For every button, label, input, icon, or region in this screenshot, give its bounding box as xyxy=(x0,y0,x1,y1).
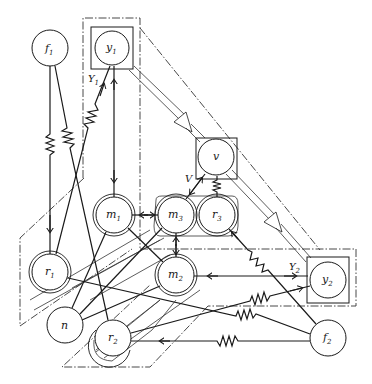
edge-n-m3 xyxy=(80,228,162,314)
edge-r2-y2 xyxy=(131,286,310,333)
double-arrow-v-to-y2 xyxy=(226,170,311,262)
node-y2[interactable]: y2 xyxy=(310,262,346,298)
node-f1[interactable]: f1 xyxy=(32,30,68,66)
node-r1[interactable]: r1 xyxy=(29,251,71,293)
region-label-y1: Y1 xyxy=(88,73,99,87)
region-label-v: V xyxy=(185,173,194,184)
region-labels: Y1 V Y2 xyxy=(88,73,301,275)
region-label-y2: Y2 xyxy=(289,261,301,275)
network-diagram: f1 y1 v m1 m3 r3 xyxy=(0,0,372,384)
node-m2[interactable]: m2 xyxy=(155,254,197,296)
node-m1-label: m xyxy=(106,208,116,221)
node-r3[interactable]: r3 xyxy=(196,194,238,236)
node-m2-label: m xyxy=(168,268,178,281)
node-m3[interactable]: m3 xyxy=(155,194,197,236)
nodes: f1 y1 v m1 m3 r3 xyxy=(29,30,346,367)
node-y1[interactable]: y1 xyxy=(95,31,129,65)
node-v-label: v xyxy=(213,150,220,163)
node-f2[interactable]: f2 xyxy=(310,320,346,356)
edge-f2-r2 xyxy=(131,336,310,346)
diagram-canvas: f1 y1 v m1 m3 r3 xyxy=(0,0,372,384)
node-m1[interactable]: m1 xyxy=(93,194,135,236)
node-n[interactable]: n xyxy=(47,307,83,343)
node-m3-label: m xyxy=(168,208,178,221)
node-n-label: n xyxy=(61,319,68,332)
edge-n-m2 xyxy=(82,286,160,320)
node-v[interactable]: v xyxy=(198,139,234,175)
node-r2[interactable]: r2 xyxy=(88,300,176,367)
